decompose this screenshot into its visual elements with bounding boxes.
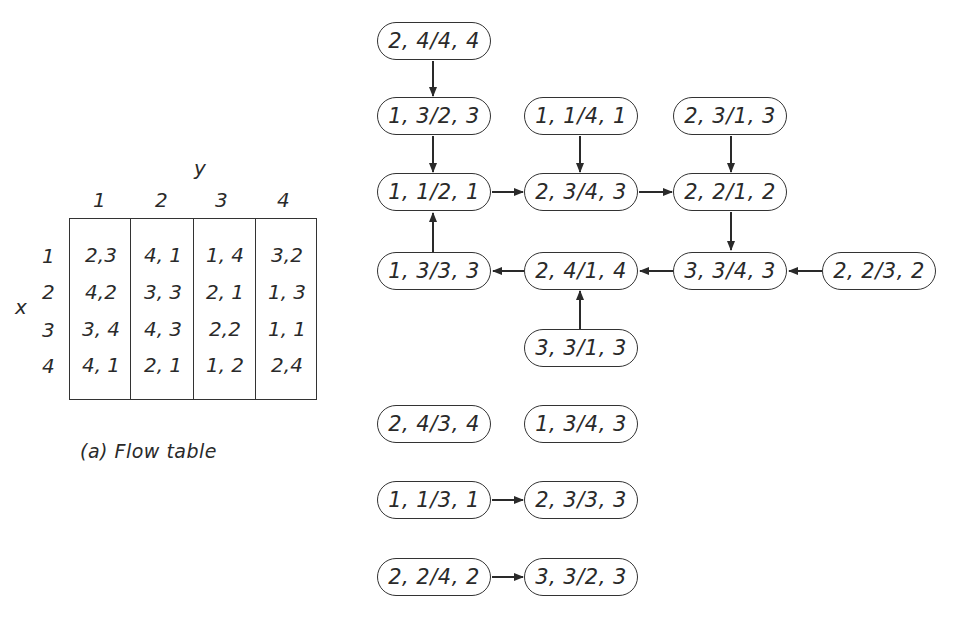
state-node: 2, 2/1, 2 (673, 173, 787, 211)
state-node: 2, 3/3, 3 (524, 481, 638, 519)
state-node: 2, 3/1, 3 (673, 97, 787, 135)
state-node: 3, 3/2, 3 (524, 558, 638, 596)
state-node: 2, 3/4, 3 (524, 173, 638, 211)
state-node: 2, 2/3, 2 (822, 252, 936, 290)
state-node: 1, 3/2, 3 (377, 97, 491, 135)
state-node: 1, 3/3, 3 (377, 252, 491, 290)
state-node: 1, 1/4, 1 (524, 97, 638, 135)
state-node: 2, 4/4, 4 (377, 22, 491, 60)
state-node: 3, 3/1, 3 (524, 329, 638, 367)
graph-edges (0, 0, 960, 636)
state-node: 2, 4/1, 4 (524, 252, 638, 290)
state-node: 1, 1/2, 1 (377, 173, 491, 211)
state-node: 2, 4/3, 4 (377, 405, 491, 443)
state-node: 2, 2/4, 2 (377, 558, 491, 596)
state-node: 3, 3/4, 3 (673, 252, 787, 290)
state-node: 1, 3/4, 3 (524, 405, 638, 443)
state-node: 1, 1/3, 1 (377, 481, 491, 519)
